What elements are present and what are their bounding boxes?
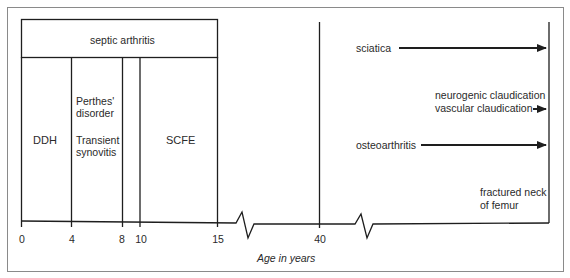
tick-label: 15 [212, 233, 224, 245]
tick-label: 8 [119, 233, 125, 245]
scfe-label: SCFE [166, 134, 195, 147]
perthes-label-line2: disorder [76, 107, 114, 120]
axis-title: Age in years [257, 252, 315, 264]
transient-synovitis-line2: synovitis [76, 146, 116, 159]
neurogenic-claudication-label: neurogenic claudication [435, 89, 545, 102]
sciatica-label: sciatica [356, 42, 391, 55]
ddh-label: DDH [33, 134, 57, 147]
osteoarthritis-label: osteoarthritis [356, 139, 416, 152]
vascular-claudication-label: vascular claudication [435, 102, 532, 115]
tick-label: 4 [69, 233, 75, 245]
tick-label: 40 [314, 233, 326, 245]
age-axis-baseline [21, 212, 549, 238]
fractured-neck-label-line1: fractured neck [480, 186, 547, 199]
septic-arthritis-label: septic arthritis [90, 34, 155, 47]
tick-label: 0 [19, 233, 25, 245]
fractured-neck-label-line2: of femur [480, 199, 519, 212]
tick-label: 10 [135, 233, 147, 245]
